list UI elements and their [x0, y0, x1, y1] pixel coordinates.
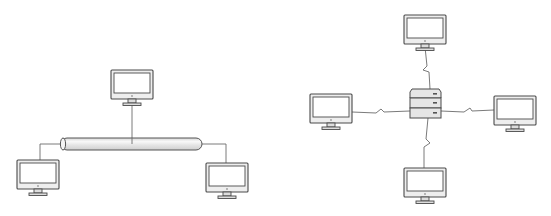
wireless-link-right: [441, 108, 494, 112]
bus-link-right: [202, 144, 226, 163]
computer-icon: [111, 70, 153, 106]
computer-icon: [404, 168, 446, 204]
network-topology-diagram: [0, 0, 551, 216]
bus-topology: [17, 70, 248, 199]
server-icon: [410, 89, 441, 118]
bus-cable: [60, 138, 202, 150]
computer-icon: [494, 96, 536, 132]
computer-icon: [404, 15, 446, 51]
bus-link-left: [40, 144, 63, 160]
computer-icon: [17, 160, 59, 196]
computer-icon: [310, 94, 352, 130]
star-topology: [310, 15, 536, 204]
wireless-link-bottom: [424, 118, 430, 168]
wireless-link-top: [423, 47, 430, 89]
wireless-link-left: [352, 109, 410, 113]
computer-icon: [206, 163, 248, 199]
